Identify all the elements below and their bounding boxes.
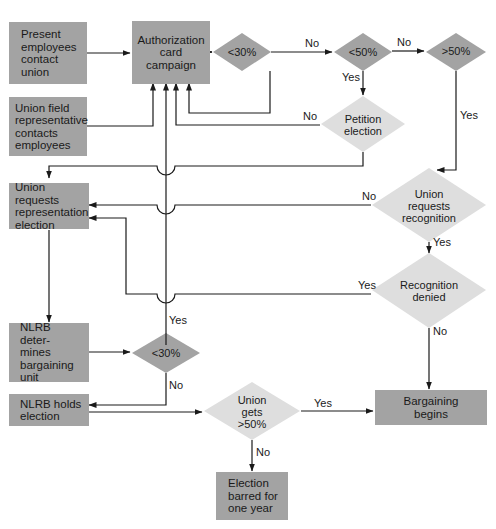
edge-label-lt30b-no: No [169,379,183,391]
edge-label-gets50-yes: Yes [314,397,332,409]
decision-text-union-gets-50: Union gets >50% [222,392,282,432]
box-text: contacts [15,127,81,140]
box-text: election [20,410,83,423]
decision-text: Recognition [400,279,458,291]
decision-text-union-requests-recognition: Union requests recognition [394,186,464,226]
box-text: employees [15,139,81,152]
box-text: union [21,66,81,79]
flowchart-canvas: Present employees contact union Union fi… [0,0,496,529]
box-text: representation [15,206,83,219]
edge-label-gets50-no: No [256,446,270,458]
box-text: contact [21,53,81,66]
edge-label-recognition-yes: Yes [433,236,451,248]
decision-text-lt30-top: <30% [217,44,267,60]
edge-label-lt50-yes: Yes [342,71,360,83]
box-union-field-rep: Union field representative contacts empl… [9,97,87,156]
box-text: mines [20,346,83,359]
box-text: begins [414,408,448,421]
box-authorization-card-campaign: Authorization card campaign [132,21,210,84]
decision-text-lt50: <50% [338,44,388,60]
box-nlrb-determines: NLRB deter- mines bargaining unit [9,323,89,382]
decision-text-recognition-denied: Recognition denied [394,277,464,305]
decision-text: <50% [349,46,377,58]
box-text: Bargaining [404,395,459,408]
decision-text-petition: Petition election [333,111,393,139]
box-present-employees: Present employees contact union [9,22,87,84]
box-election-barred: Election barred for one year [216,472,288,520]
edge-label-denied-no: No [433,325,447,337]
edge-label-gt50-yes: Yes [460,109,478,121]
decision-text-lt30-bottom: <30% [141,345,191,361]
box-text: NLRB holds [20,398,83,411]
decision-text: Petition [345,113,382,125]
edge-label-recognition-no: No [362,190,376,202]
decision-text: Union [238,394,267,406]
decision-text: gets [242,406,263,418]
decision-text: election [344,125,382,137]
edge-label-lt30b-yes: Yes [169,314,187,326]
edge-label-petition-no: No [303,110,317,122]
box-text: employees [21,41,81,54]
decision-text: requests [408,200,450,212]
box-text: one year [228,502,282,515]
box-text: NLRB deter- [20,321,83,346]
decision-text: denied [412,291,445,303]
box-text: Union field [15,102,81,115]
decision-text-gt50: >50% [431,43,481,59]
decision-text: <30% [228,46,256,58]
box-text: representative [15,114,81,127]
box-text: Authorization [137,34,204,47]
decision-text: Union [415,188,444,200]
decision-text: >50% [442,45,470,57]
box-text: Present [21,28,81,41]
box-union-requests-election: Union requests representation election [9,183,89,229]
box-bargaining-begins: Bargaining begins [375,390,487,425]
box-text: barred for [228,490,282,503]
box-text: campaign [146,59,196,72]
edge-label-lt50-no: No [397,36,411,48]
box-text: unit [20,371,83,384]
box-nlrb-holds-election: NLRB holds election [9,394,89,426]
box-text: Election [228,477,282,490]
edge-label-lt30-no: No [305,37,319,49]
edge-label-denied-yes: Yes [358,279,376,291]
box-text: bargaining [20,359,83,372]
decision-text: >50% [238,418,266,430]
decision-text: <30% [152,347,180,359]
box-text: card [160,46,182,59]
box-text: Union requests [15,181,83,206]
box-text: election [15,219,83,232]
decision-text: recognition [402,212,456,224]
